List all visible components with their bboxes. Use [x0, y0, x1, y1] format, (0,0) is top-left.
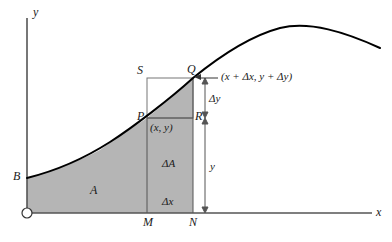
- curve-path: [27, 26, 380, 178]
- height-y-label: y: [210, 161, 215, 172]
- figure-canvas: y x B P Q R S M N A ΔA Δx Δy y (x, y) (x…: [0, 0, 392, 242]
- area-label: A: [90, 184, 97, 196]
- delta-area-label: ΔA: [162, 158, 175, 169]
- x-axis-label: x: [376, 206, 381, 218]
- point-label-b: B: [13, 170, 20, 182]
- point-label-p: P: [137, 110, 144, 122]
- y-axis-label: y: [33, 6, 38, 18]
- height-y-arrow: [202, 118, 208, 213]
- delta-y-arrow: [202, 78, 208, 118]
- point-label-q: Q: [187, 63, 196, 75]
- point-label-n: N: [189, 216, 197, 228]
- point-label-m: M: [143, 216, 153, 228]
- point-p-coordinates-label: (x, y): [150, 122, 173, 133]
- origin-circle-icon: [22, 208, 32, 218]
- point-label-s: S: [137, 64, 143, 76]
- delta-x-label: Δx: [162, 196, 173, 207]
- delta-y-label: Δy: [209, 93, 220, 104]
- point-q-coordinates-label: (x + Δx, y + Δy): [221, 71, 292, 82]
- point-label-r: R: [195, 110, 202, 122]
